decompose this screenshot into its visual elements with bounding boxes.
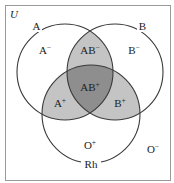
set-a-label: A [33,20,41,32]
set-rh-label: Rh [85,158,98,170]
universe-label: U [10,8,19,20]
set-b-label: B [139,20,146,32]
venn-diagram: U A B Rh A− B− AB− AB+ A+ B+ O+ O− [0,0,174,183]
